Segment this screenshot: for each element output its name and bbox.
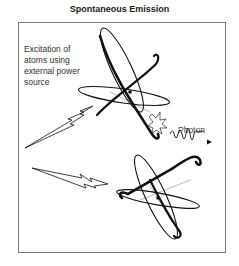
lightning-bolt-icon [32, 168, 108, 188]
ground-atom-icon [116, 151, 201, 243]
lightning-bolt-icon [25, 106, 93, 148]
excited-atom-icon [77, 24, 170, 138]
diagram-artwork [0, 0, 239, 266]
photon-wave-icon [170, 128, 212, 145]
